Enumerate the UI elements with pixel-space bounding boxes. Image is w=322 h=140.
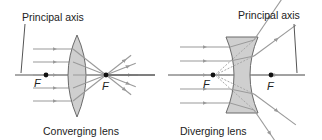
arrow-icon: [275, 110, 277, 111]
arrow-icon: [123, 60, 125, 61]
focal-label-left: F: [203, 78, 211, 90]
focal-label-right: F: [267, 80, 275, 92]
light-ray: [254, 25, 296, 56]
diverging-lens-diagram: Principal axis F F Diverging lens: [168, 0, 305, 140]
light-ray: [254, 94, 296, 125]
light-ray: [106, 55, 131, 75]
incident-rays: [180, 47, 230, 103]
light-ray: [254, 110, 283, 140]
focal-point-left: [211, 73, 216, 78]
light-ray: [106, 63, 136, 75]
arrow-icon: [123, 89, 125, 90]
incident-rays: [33, 49, 73, 101]
converging-lens-shape: [68, 35, 86, 117]
focal-point-right: [104, 73, 109, 78]
focal-label-left: F: [34, 77, 42, 89]
focal-label-right: F: [102, 80, 110, 92]
light-ray: [106, 75, 131, 95]
principal-axis-leader-line: [21, 24, 25, 73]
arrow-icon: [275, 39, 277, 40]
arrow-icon: [126, 66, 128, 67]
converging-lens-caption: Converging lens: [43, 125, 119, 137]
principal-axis-label: Principal axis: [238, 9, 300, 21]
focal-point-left: [44, 73, 49, 78]
diverging-lens-caption: Diverging lens: [180, 125, 247, 137]
lens-diagram: Principal axis F F Converging lens Princ…: [0, 0, 322, 140]
arrow-icon: [126, 83, 128, 84]
light-ray: [106, 75, 136, 87]
refracted-rays: [73, 49, 155, 101]
focal-point-right: [269, 73, 274, 78]
principal-axis-label: Principal axis: [22, 11, 84, 23]
arrow-icon: [269, 132, 270, 134]
principal-axis-leader-line: [294, 24, 297, 73]
converging-lens-diagram: Principal axis F F Converging lens: [15, 11, 155, 137]
